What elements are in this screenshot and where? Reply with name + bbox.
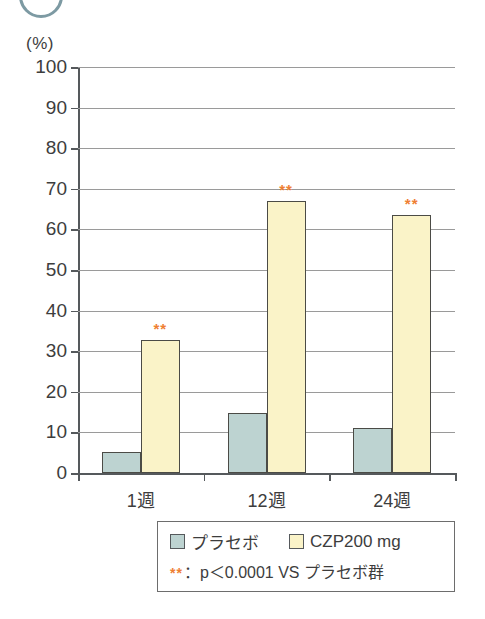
y-axis-tick-label: 40 (46, 300, 67, 322)
y-axis-tick (71, 432, 78, 434)
y-axis-tick-label: 90 (46, 97, 67, 119)
gridline (78, 67, 455, 68)
x-axis-category-label: 1週 (127, 486, 155, 512)
significance-marker: ** (279, 182, 293, 197)
x-axis-category-label: 24週 (373, 486, 411, 512)
legend: プラセボ CZP200 mg ** ：p＜0.0001 VS プラセボ群 (157, 521, 455, 592)
legend-swatch-czp-icon (289, 534, 304, 549)
y-axis-unit-label: (%) (26, 34, 54, 54)
legend-item-placebo: プラセボ (170, 529, 259, 554)
x-axis-category-label: 12週 (247, 486, 285, 512)
x-axis-tick (329, 473, 331, 481)
gridline (78, 189, 455, 190)
y-axis-tick (71, 67, 78, 69)
legend-significance-note: ** ：p＜0.0001 VS プラセボ群 (170, 559, 444, 583)
y-axis-tick (71, 473, 78, 475)
y-axis-tick-label: 30 (46, 340, 67, 362)
y-axis-tick (71, 270, 78, 272)
legend-item-czp: CZP200 mg (289, 532, 401, 552)
x-axis-line (78, 473, 456, 475)
significance-marker: ** (153, 321, 167, 336)
gridline (78, 148, 455, 149)
legend-note-text: ：p＜0.0001 VS プラセボ群 (184, 559, 384, 583)
legend-label-placebo: プラセボ (191, 529, 259, 554)
x-axis-tick (78, 473, 80, 481)
bar-czp (392, 215, 431, 473)
y-axis-tick-label: 0 (56, 462, 67, 484)
gridline (78, 108, 455, 109)
x-axis-tick (455, 473, 457, 481)
bar-placebo (102, 452, 141, 473)
y-axis-tick-label: 20 (46, 381, 67, 403)
legend-swatch-placebo-icon (170, 534, 185, 549)
y-axis-tick-label: 10 (46, 421, 67, 443)
y-axis-tick (71, 311, 78, 313)
bar-placebo (228, 413, 267, 473)
plot-area: 0102030405060708090100 ****** (78, 67, 455, 473)
y-axis-tick (71, 351, 78, 353)
y-axis-tick (71, 392, 78, 394)
legend-label-czp: CZP200 mg (310, 532, 401, 552)
bar-chart: (%) 0102030405060708090100 ****** 1週12週2… (0, 0, 485, 619)
y-axis-tick-label: 70 (46, 178, 67, 200)
y-axis-tick (71, 229, 78, 231)
x-axis-tick (204, 473, 206, 481)
y-axis-tick (71, 189, 78, 191)
y-axis-tick-label: 60 (46, 218, 67, 240)
legend-series-row: プラセボ CZP200 mg (170, 529, 444, 554)
y-axis-tick (71, 108, 78, 110)
significance-asterisk-icon: ** (170, 565, 183, 581)
y-axis-tick (71, 148, 78, 150)
y-axis-tick-label: 80 (46, 137, 67, 159)
y-axis-tick-label: 50 (46, 259, 67, 281)
bar-czp (141, 340, 180, 473)
significance-marker: ** (405, 196, 419, 211)
bar-placebo (353, 428, 392, 473)
y-axis-tick-label: 100 (35, 56, 67, 78)
bar-czp (267, 201, 306, 473)
